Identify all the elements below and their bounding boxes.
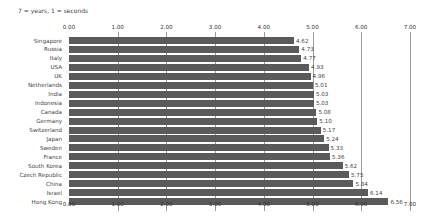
- value-label: 5.36: [332, 153, 344, 161]
- bar: [69, 37, 294, 44]
- bar: [69, 55, 301, 62]
- bar: [69, 180, 353, 187]
- category-label: Czech Republic: [19, 171, 62, 179]
- bar: [69, 73, 311, 80]
- category-label: France: [43, 153, 62, 161]
- x-tick-label-bottom: 6.00: [355, 201, 367, 207]
- category-label: Canada: [41, 108, 62, 116]
- x-tick-label-bottom: 3.00: [209, 201, 221, 207]
- bar: [69, 162, 343, 169]
- x-tick-label-bottom: 7.00: [404, 201, 416, 207]
- value-label: 5.17: [323, 126, 335, 134]
- x-tick-label-top: 2.00: [160, 24, 172, 30]
- bar: [69, 135, 324, 142]
- category-label: South Korea: [28, 162, 62, 170]
- category-label: Germany: [36, 117, 62, 125]
- bar: [69, 118, 317, 125]
- category-label: Israel: [47, 189, 62, 197]
- bar: [69, 100, 314, 107]
- category-label: USA: [50, 63, 62, 71]
- x-tick-label-bottom: 4.00: [258, 201, 270, 207]
- category-label: Netherlands: [28, 81, 62, 89]
- value-label: 5.75: [351, 171, 363, 179]
- value-label: 4.93: [311, 63, 323, 71]
- value-label: 6.14: [370, 189, 382, 197]
- x-tick-label-bottom: 5.00: [306, 201, 318, 207]
- x-tick-label-top: 0.00: [63, 24, 75, 30]
- value-label: 5.10: [319, 117, 331, 125]
- category-label: Singapore: [34, 37, 62, 45]
- value-label: 5.03: [316, 90, 328, 98]
- x-tick-label-top: 6.00: [355, 24, 367, 30]
- value-label: 5.01: [315, 81, 327, 89]
- bar: [69, 109, 316, 116]
- value-label: 4.73: [301, 45, 313, 53]
- value-label: 4.77: [303, 54, 315, 62]
- value-label: 5.84: [355, 180, 367, 188]
- bar: [69, 82, 313, 89]
- bar: [69, 153, 330, 160]
- gridline: [410, 32, 411, 211]
- bar: [69, 64, 309, 71]
- x-tick-label-bottom: 0.00: [63, 201, 75, 207]
- value-label: 5.03: [316, 99, 328, 107]
- x-tick-label-bottom: 2.00: [160, 201, 172, 207]
- category-label: UK: [54, 72, 62, 80]
- chart-note: 7 = years, 1 = seconds: [18, 7, 88, 14]
- category-label: Switzerland: [29, 126, 62, 134]
- category-label: Hong Kong: [32, 198, 62, 206]
- category-label: India: [48, 90, 62, 98]
- x-tick-label-top: 1.00: [111, 24, 123, 30]
- x-tick-label-top: 7.00: [404, 24, 416, 30]
- category-label: Sweden: [40, 144, 62, 152]
- value-label: 5.62: [345, 162, 357, 170]
- value-label: 4.62: [296, 37, 308, 45]
- x-tick-label-bottom: 1.00: [111, 201, 123, 207]
- bar: [69, 189, 368, 196]
- x-tick-label-top: 4.00: [258, 24, 270, 30]
- category-label: Japan: [46, 135, 62, 143]
- category-label: Russia: [44, 45, 62, 53]
- value-label: 4.96: [313, 72, 325, 80]
- value-label: 6.56: [390, 198, 402, 206]
- x-tick-label-top: 3.00: [209, 24, 221, 30]
- x-tick-label-top: 5.00: [306, 24, 318, 30]
- bar: [69, 91, 314, 98]
- category-label: Italy: [50, 54, 62, 62]
- value-label: 5.24: [326, 135, 338, 143]
- bar: [69, 127, 321, 134]
- category-label: Indonesia: [35, 99, 62, 107]
- value-label: 5.33: [331, 144, 343, 152]
- bar: [69, 46, 299, 53]
- category-label: China: [46, 180, 62, 188]
- bar: [69, 171, 349, 178]
- bar: [69, 144, 329, 151]
- value-label: 5.08: [318, 108, 330, 116]
